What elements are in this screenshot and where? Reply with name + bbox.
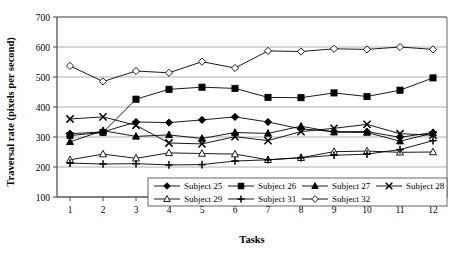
legend-label: Subject 28 bbox=[406, 181, 445, 191]
legend-label: Subject 29 bbox=[184, 194, 223, 204]
legend-label: Subject 25 bbox=[184, 181, 223, 191]
marker-filled-square bbox=[238, 183, 244, 189]
traversal-rate-line-chart: 100200300400500600700 123456789101112 Su… bbox=[0, 0, 461, 254]
x-tick-label-1: 1 bbox=[68, 205, 73, 215]
legend-label: Subject 31 bbox=[258, 194, 296, 204]
x-tick-label-5: 5 bbox=[200, 205, 205, 215]
chart-container: 100200300400500600700 123456789101112 Su… bbox=[0, 0, 461, 254]
y-tick-label-100: 100 bbox=[36, 193, 51, 203]
y-tick-label-200: 200 bbox=[36, 163, 51, 173]
y-tick-label-500: 500 bbox=[36, 73, 51, 83]
legend-label: Subject 32 bbox=[332, 194, 370, 204]
x-tick-label-3: 3 bbox=[134, 205, 139, 215]
marker-filled-square bbox=[430, 75, 436, 81]
x-axis-title: Tasks bbox=[239, 234, 264, 245]
x-tick-label-10: 10 bbox=[362, 205, 372, 215]
marker-filled-square bbox=[331, 90, 337, 96]
x-tick-label-6: 6 bbox=[233, 205, 238, 215]
x-tick-label-11: 11 bbox=[395, 205, 404, 215]
x-tick-label-12: 12 bbox=[428, 205, 438, 215]
y-tick-label-700: 700 bbox=[36, 13, 51, 23]
chart-legend: Subject 25Subject 26Subject 27Subject 28… bbox=[148, 178, 447, 206]
marker-filled-square bbox=[199, 84, 205, 90]
x-tick-label-4: 4 bbox=[167, 205, 172, 215]
marker-filled-square bbox=[265, 94, 271, 100]
y-tick-label-300: 300 bbox=[36, 133, 51, 143]
chart-background bbox=[0, 0, 461, 254]
y-axis-title: Traversal rate (pixels per second) bbox=[5, 37, 17, 187]
marker-filled-square bbox=[397, 87, 403, 93]
marker-filled-square bbox=[232, 85, 238, 91]
legend-label: Subject 26 bbox=[258, 181, 297, 191]
legend-label: Subject 27 bbox=[332, 181, 371, 191]
x-tick-label-2: 2 bbox=[101, 205, 106, 215]
y-tick-label-400: 400 bbox=[36, 103, 51, 113]
marker-filled-square bbox=[364, 93, 370, 99]
marker-filled-square bbox=[298, 95, 304, 101]
x-tick-label-7: 7 bbox=[266, 205, 271, 215]
x-tick-label-9: 9 bbox=[332, 205, 337, 215]
marker-filled-square bbox=[166, 86, 172, 92]
y-tick-label-600: 600 bbox=[36, 43, 51, 53]
x-tick-label-8: 8 bbox=[299, 205, 304, 215]
marker-filled-square bbox=[133, 96, 139, 102]
